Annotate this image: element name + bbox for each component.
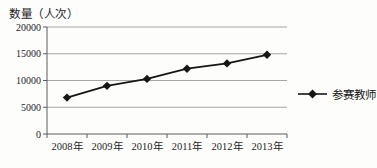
x-tick-label: 2010年 — [132, 140, 163, 152]
legend-line-diamond-icon — [297, 88, 328, 100]
line-chart-figure: 数量（人次） 050001000015000200002008年2009年201… — [0, 0, 377, 168]
y-tick-label: 10000 — [16, 75, 41, 86]
x-tick-label: 2009年 — [92, 140, 123, 152]
x-tick-label: 2011年 — [172, 140, 203, 152]
data-point-diamond — [223, 59, 231, 67]
x-tick-label: 2013年 — [252, 140, 283, 152]
y-tick-label: 15000 — [16, 48, 41, 59]
line-chart-plot: 050001000015000200002008年2009年2010年2011年… — [0, 0, 377, 168]
y-tick-label: 0 — [36, 129, 41, 140]
data-point-diamond — [143, 75, 151, 83]
legend-label: 参赛教师 — [332, 86, 376, 102]
legend: 参赛教师 — [297, 86, 376, 102]
data-point-diamond — [103, 82, 111, 90]
y-tick-label: 20000 — [16, 22, 41, 33]
data-point-diamond — [63, 93, 71, 101]
data-line — [67, 55, 267, 98]
data-point-diamond — [183, 65, 191, 73]
data-point-diamond — [263, 51, 271, 59]
y-tick-label: 5000 — [21, 102, 41, 113]
x-tick-label: 2008年 — [52, 140, 83, 152]
x-tick-label: 2012年 — [212, 140, 243, 152]
